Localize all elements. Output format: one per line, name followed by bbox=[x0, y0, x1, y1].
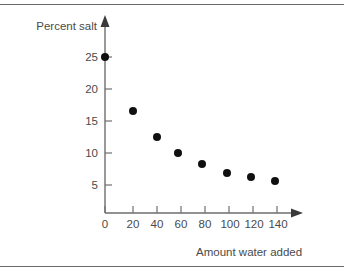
data-point bbox=[153, 133, 161, 141]
data-point bbox=[271, 177, 279, 185]
data-point bbox=[129, 107, 137, 115]
data-series bbox=[101, 53, 279, 185]
x-tick-label: 40 bbox=[151, 218, 164, 230]
y-axis bbox=[101, 15, 110, 213]
data-point bbox=[174, 149, 182, 157]
x-axis bbox=[105, 209, 303, 218]
y-tick-label: 20 bbox=[85, 83, 98, 95]
y-tick-label: 15 bbox=[85, 115, 98, 127]
x-axis-arrow-icon bbox=[291, 209, 303, 218]
x-tick-label: 100 bbox=[220, 218, 239, 230]
y-axis-arrow-icon bbox=[101, 15, 110, 27]
x-tick-label: 80 bbox=[199, 218, 212, 230]
x-tick-label: 60 bbox=[175, 218, 188, 230]
scatter-plot: 5 10 15 20 25 0 20 40 60 80 100 120 140 bbox=[0, 0, 344, 273]
x-axis-ticks bbox=[105, 206, 277, 213]
y-tick-label: 5 bbox=[92, 179, 98, 191]
y-axis-ticks bbox=[105, 57, 112, 185]
data-point bbox=[101, 53, 109, 61]
data-point bbox=[198, 160, 206, 168]
data-point bbox=[223, 169, 231, 177]
x-tick-label: 120 bbox=[244, 218, 263, 230]
x-tick-label: 20 bbox=[127, 218, 140, 230]
figure-panel: 5 10 15 20 25 0 20 40 60 80 100 120 140 bbox=[0, 0, 344, 273]
y-axis-tick-labels: 5 10 15 20 25 bbox=[85, 51, 98, 191]
x-tick-label: 0 bbox=[102, 218, 108, 230]
y-tick-label: 10 bbox=[85, 147, 98, 159]
y-axis-title: Percent salt bbox=[36, 20, 98, 32]
data-point bbox=[247, 173, 255, 181]
y-tick-label: 25 bbox=[85, 51, 98, 63]
x-tick-label: 140 bbox=[268, 218, 287, 230]
x-axis-title: Amount water added bbox=[196, 246, 302, 258]
x-axis-tick-labels: 0 20 40 60 80 100 120 140 bbox=[102, 218, 288, 230]
